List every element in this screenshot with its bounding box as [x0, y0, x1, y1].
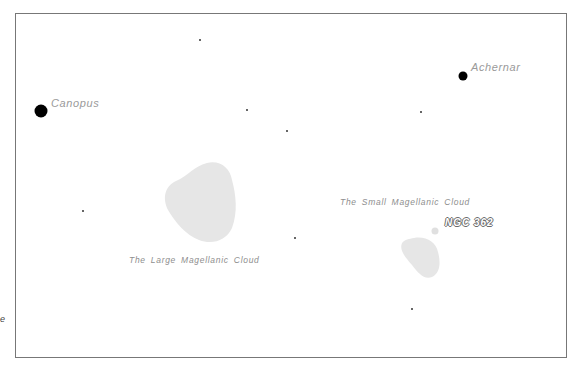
- large-magellanic-cloud-shape: [165, 162, 236, 242]
- canopus-star-dot: [35, 105, 48, 118]
- cropped-text-fragment: e: [0, 314, 5, 324]
- achernar-star-dot: [459, 72, 468, 81]
- star-chart: [0, 0, 573, 367]
- canopus-label: Canopus: [51, 97, 99, 109]
- small-magellanic-cloud-label: The Small Magellanic Cloud: [340, 197, 470, 207]
- faint-star-dot: [199, 39, 201, 41]
- small-magellanic-cloud-shape: [401, 238, 439, 278]
- achernar-label: Achernar: [471, 61, 520, 73]
- faint-star-dot: [82, 210, 84, 212]
- faint-star-dot: [411, 308, 413, 310]
- ngc-362-label: NGC 362: [445, 217, 494, 228]
- ngc-362-cluster-dot: [432, 228, 439, 235]
- faint-star-dot: [246, 109, 248, 111]
- faint-star-dot: [286, 130, 288, 132]
- large-magellanic-cloud-label: The Large Magellanic Cloud: [129, 255, 260, 265]
- faint-star-dot: [420, 111, 422, 113]
- faint-star-dot: [294, 237, 296, 239]
